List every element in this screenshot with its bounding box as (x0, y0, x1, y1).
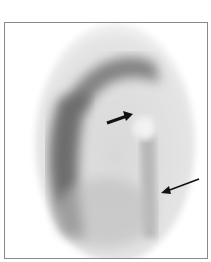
annotation-arrows (5, 23, 207, 258)
image-frame (4, 22, 208, 259)
long-thin-arrow-icon (161, 179, 199, 194)
short-thick-arrow-icon (107, 111, 133, 123)
